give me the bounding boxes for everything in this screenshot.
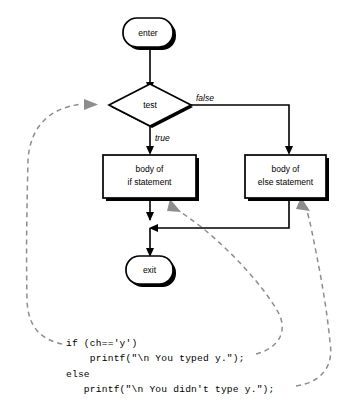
node-if-body-label-line1: body of — [136, 164, 165, 174]
dashed-link-else-to-elsebody — [296, 197, 331, 386]
dashed-link-else-to-elsebody-path — [296, 208, 331, 386]
dashed-link-condition-to-test — [27, 99, 98, 344]
node-else-body-label-line1: body of — [272, 164, 301, 174]
node-if-body-label-line2: if statement — [128, 177, 173, 187]
edge-test-to-elsebody — [191, 105, 293, 155]
node-test-label: test — [143, 100, 157, 110]
edge-test-to-elsebody-arrowhead — [285, 146, 293, 155]
dashed-link-then-to-ifbody-path — [178, 210, 282, 354]
dashed-link-condition-to-test-path — [27, 104, 82, 344]
edge-label-true: true — [155, 133, 170, 143]
node-if-body: body of if statement — [103, 155, 199, 201]
dashed-link-then-to-ifbody — [167, 199, 282, 354]
node-enter: enter — [123, 18, 176, 50]
code-line-1: if (ch=='y') — [66, 338, 138, 349]
code-block: if (ch=='y') printf("\n You typed y."); … — [66, 338, 275, 395]
code-line-2: printf("\n You typed y."); — [66, 353, 245, 364]
node-test: test — [109, 84, 193, 128]
edge-test-to-elsebody-line — [191, 105, 289, 147]
edge-ifbody-to-merge — [146, 198, 154, 221]
edge-elsebody-to-merge-line — [157, 198, 289, 228]
node-enter-label: enter — [138, 28, 158, 38]
node-else-body-label-line2: else statement — [258, 177, 314, 187]
edge-merge-to-exit — [146, 228, 154, 257]
edge-ifbody-to-merge-arrowhead — [146, 212, 154, 221]
flowchart-canvas: enter test false true body of if stateme… — [0, 0, 353, 418]
code-line-4: printf("\n You didn't type y."); — [66, 384, 275, 395]
dashed-link-condition-to-test-arrowhead — [84, 99, 98, 110]
code-line-3: else — [66, 369, 90, 380]
node-exit: exit — [126, 256, 176, 287]
node-exit-label: exit — [143, 265, 157, 275]
flowchart-figure: enter test false true body of if stateme… — [0, 0, 353, 418]
edge-label-false: false — [196, 93, 214, 103]
edge-test-to-ifbody-arrowhead — [146, 146, 154, 155]
node-else-body: body of else statement — [245, 155, 329, 201]
edge-test-to-ifbody — [146, 126, 154, 155]
